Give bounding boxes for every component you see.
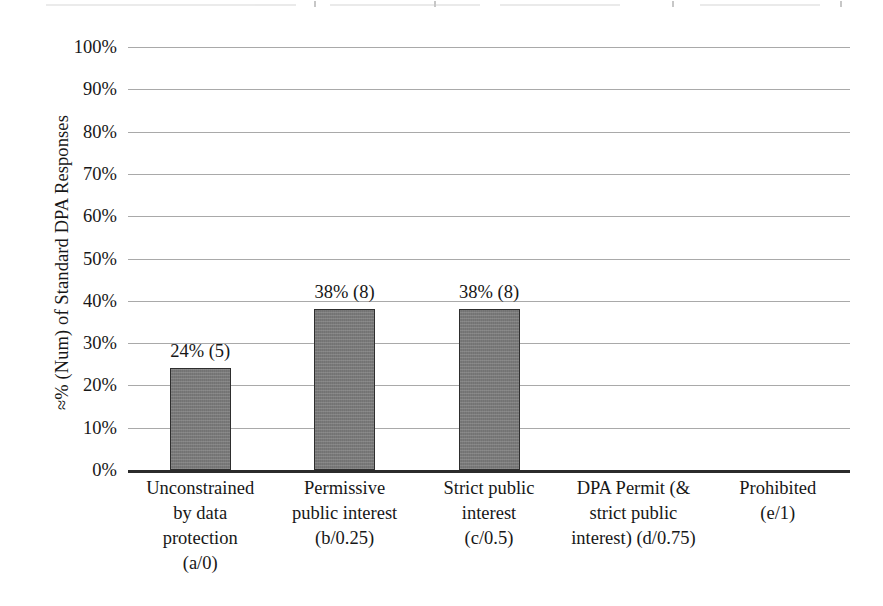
bar-fill-texture (460, 310, 519, 469)
bar-value-label: 38% (8) (459, 282, 519, 303)
x-category-label-line: (a/0) (128, 551, 272, 576)
plot-area: 24% (5) 38% (8) 38% (8) (128, 47, 850, 470)
x-axis-line (128, 470, 850, 473)
x-category-label-unconstrained: Unconstrainedby dataprotection(a/0) (128, 476, 272, 576)
gridline (128, 89, 850, 90)
x-category-label-line: Permissive (272, 476, 416, 501)
x-category-label-permissive: Permissivepublic interest(b/0.25) (272, 476, 416, 551)
bar-fill-texture (315, 310, 374, 469)
bar-fill-texture (171, 369, 230, 469)
gridline (128, 132, 850, 133)
x-category-label-line: interest (417, 501, 561, 526)
bar-value-label: 38% (8) (315, 282, 375, 303)
bar-value-label: 24% (5) (170, 341, 230, 362)
x-category-label-line: strict public (561, 501, 705, 526)
bar-strict-public-interest[interactable] (459, 309, 520, 470)
x-category-label-line: Strict public (417, 476, 561, 501)
bar-permissive-public-interest[interactable] (314, 309, 375, 470)
x-category-label-prohibited: Prohibited(e/1) (706, 476, 850, 526)
x-category-label-line: (c/0.5) (417, 526, 561, 551)
x-category-label-dpa-permit: DPA Permit (&strict publicinterest) (d/0… (561, 476, 705, 551)
x-category-label-strict: Strict publicinterest(c/0.5) (417, 476, 561, 551)
gridline (128, 174, 850, 175)
x-category-label-line: DPA Permit (& (561, 476, 705, 501)
x-category-label-line: (b/0.25) (272, 526, 416, 551)
x-axis-category-labels: Unconstrainedby dataprotection(a/0) Perm… (128, 476, 850, 601)
x-category-label-line: Unconstrained (128, 476, 272, 501)
bar-unconstrained-by-data-protection[interactable] (170, 368, 231, 470)
x-category-label-line: (e/1) (706, 501, 850, 526)
x-category-label-line: Prohibited (706, 476, 850, 501)
gridline (128, 47, 850, 48)
bar-chart-figure: ≈% (Num) of Standard DPA Responses 100% … (0, 0, 883, 606)
x-category-label-line: protection (128, 526, 272, 551)
gridline (128, 216, 850, 217)
x-category-label-line: public interest (272, 501, 416, 526)
x-category-label-line: by data (128, 501, 272, 526)
gridline (128, 259, 850, 260)
y-axis-title: ≈% (Num) of Standard DPA Responses (52, 53, 73, 473)
x-category-label-line: interest) (d/0.75) (561, 526, 705, 551)
